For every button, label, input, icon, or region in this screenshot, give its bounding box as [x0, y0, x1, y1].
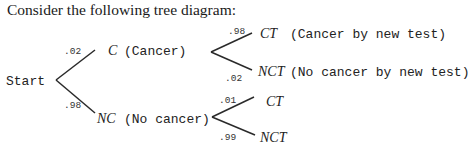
node-start: Start	[6, 74, 45, 89]
prob-c-nct: .02	[225, 73, 242, 84]
node-c-ct-symbol: CT	[260, 26, 278, 41]
prob-nc-nct: .99	[219, 132, 236, 143]
node-c-symbol: C	[108, 43, 118, 58]
node-nc-symbol: NC	[96, 111, 116, 126]
prob-nc-ct: .01	[219, 95, 236, 106]
node-nc-desc: (No cancer)	[124, 112, 210, 127]
node-c-nct-symbol: NCT	[257, 64, 286, 79]
edge-c-nct	[211, 52, 252, 70]
node-nc-ct-symbol: CT	[266, 94, 284, 109]
prob-c-ct: .98	[228, 26, 245, 37]
node-c-nct-desc: (No cancer by new test)	[290, 65, 469, 80]
node-c-desc: (Cancer)	[124, 44, 186, 59]
node-nc-nct-symbol: NCT	[259, 130, 288, 145]
tree-diagram-figure: Consider the following tree diagram: Sta…	[0, 0, 472, 162]
node-c-ct-desc: (Cancer by new test)	[290, 27, 446, 42]
tree-diagram: Start .02 .98 C (Cancer) NC (No cancer) …	[0, 0, 472, 162]
prob-c: .02	[64, 46, 81, 57]
prob-nc: .98	[64, 100, 81, 111]
